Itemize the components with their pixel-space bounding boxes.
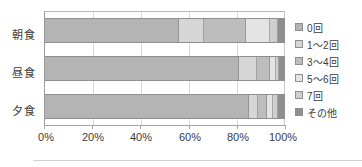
x-tick-60 (189, 125, 190, 129)
bar-segment (239, 57, 257, 80)
bar-segment (249, 95, 257, 118)
bar-segment (45, 57, 239, 80)
legend-item[interactable]: 5～6回 (295, 70, 361, 86)
x-tick-label-80: 80% (227, 131, 249, 143)
x-tick-label-20: 20% (82, 131, 104, 143)
bar-segment (258, 95, 268, 118)
plot-area (44, 11, 285, 125)
legend-swatch-icon (295, 57, 303, 65)
x-tick-label-0: 0% (38, 131, 54, 143)
legend-label: 1～2回 (307, 37, 339, 52)
footer-divider (33, 160, 362, 161)
legend-swatch-icon (295, 23, 303, 31)
category-axis: 朝食 昼食 夕食 (0, 11, 42, 125)
legend-swatch-icon (295, 40, 303, 48)
legend-label: 3～4回 (307, 54, 339, 69)
legend-item[interactable]: 3～4回 (295, 53, 361, 69)
legend-item[interactable]: その他 (295, 104, 361, 120)
legend-item[interactable]: 7回 (295, 87, 361, 103)
bar-segment (45, 19, 179, 42)
bar-segment (257, 57, 270, 80)
x-axis-line (44, 125, 286, 126)
legend-swatch-icon (295, 91, 303, 99)
x-tick-40 (140, 125, 141, 129)
legend-swatch-icon (295, 74, 303, 82)
x-tick-label-40: 40% (130, 131, 152, 143)
chart-legend: 0回1～2回3～4回5～6回7回その他 (295, 19, 361, 121)
category-label-dinner: 夕食 (0, 102, 35, 118)
legend-item[interactable]: 1～2回 (295, 36, 361, 52)
bar-row (45, 56, 285, 81)
category-label-breakfast: 朝食 (0, 26, 35, 42)
bar-row (45, 94, 285, 119)
legend-label: 7回 (307, 88, 323, 103)
legend-label: 5～6回 (307, 71, 339, 86)
x-tick-20 (92, 125, 93, 129)
bar-segment (246, 19, 270, 42)
x-tick-label-100: 100% (269, 131, 297, 143)
bar-segment (204, 19, 246, 42)
legend-label: その他 (307, 105, 338, 120)
x-axis-labels: 0% 20% 40% 60% 80% 100% (0, 131, 362, 147)
legend-label: 0回 (307, 20, 323, 35)
bar-segment (278, 95, 284, 118)
legend-swatch-icon (295, 108, 303, 116)
bar-segment (278, 19, 284, 42)
x-tick-100 (285, 125, 286, 129)
category-label-lunch: 昼食 (0, 64, 35, 80)
x-tick-80 (237, 125, 238, 129)
bar-segment (179, 19, 204, 42)
x-tick-label-60: 60% (179, 131, 201, 143)
bar-row (45, 18, 285, 43)
bar-segment (45, 95, 249, 118)
stacked-bar-chart: 朝食 昼食 夕食 0% 20% 40% 60% 80% 100% 0回1～2回3… (0, 0, 362, 167)
bar-segment (279, 57, 284, 80)
bar-segment (270, 19, 278, 42)
legend-item[interactable]: 0回 (295, 19, 361, 35)
x-tick-0 (44, 125, 45, 129)
